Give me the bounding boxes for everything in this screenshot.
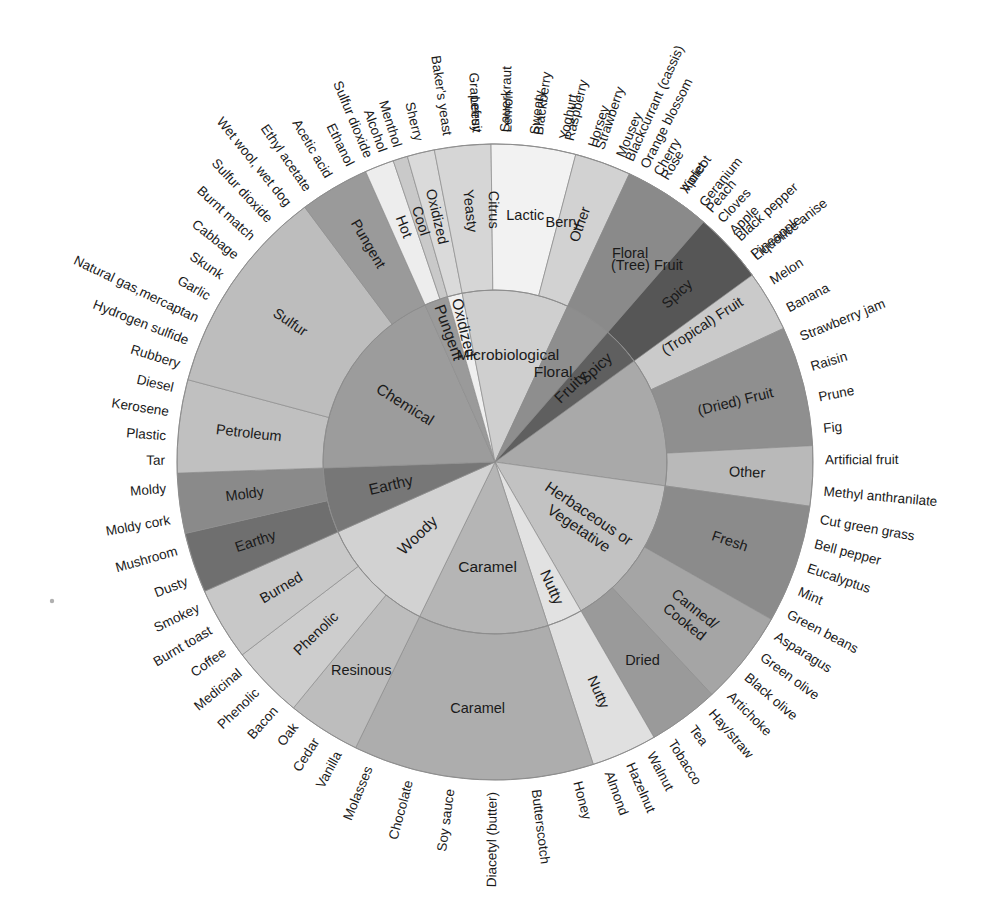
leaf-label-1-0-1: Bell pepper <box>813 536 883 568</box>
leaf-label-0-4-2: Prune <box>817 383 855 405</box>
leaf-label-6-0-3: Diesel <box>135 372 175 395</box>
mid-label-0-0: Citrus <box>486 191 502 229</box>
inner-label-9: Microbiological <box>457 346 560 363</box>
leaf-label-4-0-2: Oak <box>274 720 301 749</box>
leaf-label-4-0-1: Cedar <box>290 735 323 774</box>
leaf-label-5-0-1: Mushroom <box>114 543 179 575</box>
wheel-segments <box>177 144 813 780</box>
scan-speck <box>50 599 54 603</box>
leaf-label-0-4-3: Fig <box>823 419 843 436</box>
leaf-label-9-0-0: Baker's yeast <box>428 55 455 137</box>
leaf-label-3-0-5: Molasses <box>340 764 376 823</box>
leaf-label-2-0-2: Almond <box>602 769 632 817</box>
mid-label-4-0: Resinous <box>331 662 391 678</box>
leaf-label-3-0-3: Soy sauce <box>434 788 457 852</box>
leaf-label-1-2-1: Tea <box>686 722 711 749</box>
inner-label-3: Caramel <box>458 558 517 575</box>
leaf-label-4-2-0: Coffee <box>188 645 229 680</box>
mid-label-1-2: Dried <box>625 652 660 668</box>
leaf-label-3-0-1: Butterscotch <box>529 789 553 865</box>
leaf-label-0-5-0: Artificial fruit <box>825 452 899 467</box>
leaf-label-6-1-0: Rubbery <box>129 342 182 371</box>
leaf-label-5-1-1: Moldy <box>130 481 167 499</box>
leaf-label-5-0-0: Dusty <box>152 574 190 601</box>
leaf-label-3-0-2: Diacetyl (butter) <box>484 792 500 887</box>
leaf-label-6-0-0: Tar <box>146 453 165 468</box>
leaf-label-6-0-2: Kerosene <box>111 396 170 419</box>
aroma-wheel-svg: FruityCitrusGrapefruitLemonBerryBlackber… <box>0 0 990 919</box>
leaf-label-9-0-1: Leesy <box>467 96 484 133</box>
mid-label-10-0: Floral <box>612 245 648 261</box>
leaf-label-3-0-4: Chocolate <box>386 779 416 842</box>
leaf-label-9-1-0: Sauerkraut <box>497 66 514 133</box>
leaf-label-0-3-2: Banana <box>784 280 833 315</box>
leaf-label-1-0-0: Cut green grass <box>819 512 916 544</box>
mid-label-3-0: Caramel <box>450 700 505 716</box>
leaf-label-3-0-0: Honey <box>570 780 594 822</box>
inner-label-10: Floral <box>534 363 573 380</box>
leaf-label-0-3-1: Melon <box>767 255 806 288</box>
leaf-label-1-0-3: Mint <box>796 584 826 608</box>
leaf-label-4-1-0: Bacon <box>244 703 281 742</box>
leaf-label-8-0-0: Sherry <box>402 100 426 142</box>
mid-label-0-5: Other <box>729 463 766 481</box>
leaf-label-6-1-4: Skunk <box>187 249 227 283</box>
mid-label-9-1: Lactic <box>506 207 544 223</box>
leaf-label-6-0-1: Plastic <box>126 425 167 443</box>
leaf-label-5-1-0: Moldy cork <box>105 512 172 538</box>
leaf-label-0-5-1: Methyl anthranilate <box>823 484 938 509</box>
leaf-label-6-1-3: Garlic <box>175 273 213 304</box>
aroma-wheel-figure: FruityCitrusGrapefruitLemonBerryBlackber… <box>0 0 990 919</box>
leaf-label-0-4-1: Raisin <box>809 349 849 374</box>
leaf-label-4-0-0: Vanilla <box>313 748 345 790</box>
